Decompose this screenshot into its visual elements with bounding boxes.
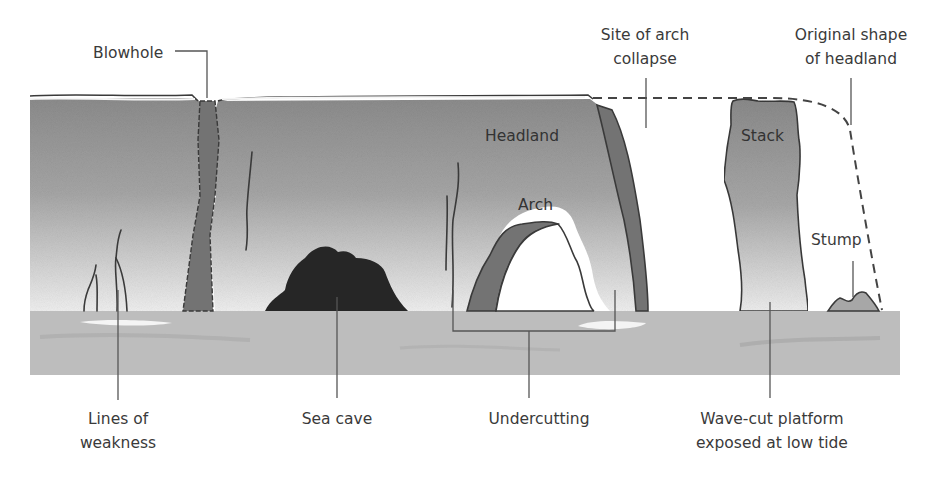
label-arch: Arch: [518, 196, 553, 214]
label-site-of-arch-collapse-2: collapse: [613, 50, 677, 68]
label-site-of-arch-collapse-1: Site of arch: [601, 26, 689, 44]
label-stump: Stump: [811, 231, 862, 249]
label-undercutting: Undercutting: [488, 410, 589, 428]
label-sea-cave: Sea cave: [302, 410, 373, 428]
label-lines-of-weakness-2: weakness: [80, 434, 156, 452]
left-cliff: [30, 98, 205, 311]
label-stack: Stack: [741, 127, 784, 145]
label-original-shape-1: Original shape: [795, 26, 907, 44]
label-original-shape-2: of headland: [805, 50, 897, 68]
label-headland: Headland: [485, 127, 559, 145]
label-blowhole: Blowhole: [93, 44, 163, 62]
label-lines-of-weakness-1: Lines of: [88, 410, 149, 428]
label-wave-cut-platform-1: Wave-cut platform: [700, 410, 843, 428]
coastal-erosion-diagram: Blowhole Site of arch collapse Original …: [0, 0, 948, 482]
label-wave-cut-platform-2: exposed at low tide: [696, 434, 848, 452]
